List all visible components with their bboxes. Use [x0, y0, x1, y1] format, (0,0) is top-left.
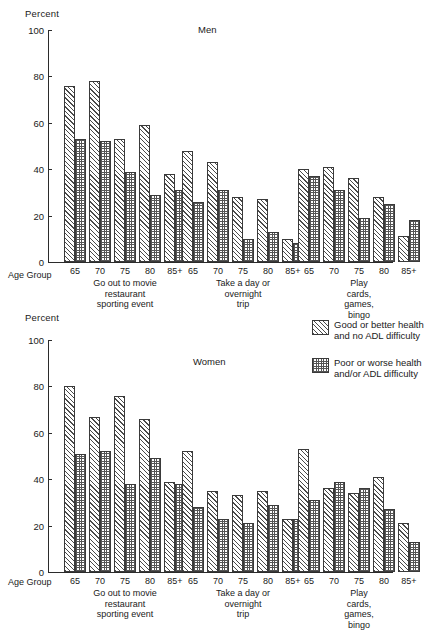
x-tick-label: 80 [145, 576, 155, 586]
x-tick-label: 65 [70, 266, 80, 276]
bar [243, 523, 254, 572]
y-axis-line [48, 30, 49, 262]
legend-swatch-diagonal-hatch [312, 320, 329, 335]
bar [89, 81, 100, 262]
y-axis-line [48, 340, 49, 572]
bar [298, 169, 309, 262]
legend-item: Poor or worse health and/or ADL difficul… [312, 358, 422, 380]
bar [348, 493, 359, 572]
bar [232, 495, 243, 572]
x-axis-line [48, 572, 393, 573]
bar [359, 218, 370, 262]
bar [268, 232, 279, 262]
bar [384, 204, 395, 262]
bar [373, 197, 384, 262]
x-tick-label: 75 [120, 266, 130, 276]
age-group-label-women: Age Group [8, 577, 52, 587]
bar [218, 190, 229, 262]
y-tick-mark [48, 169, 52, 170]
bar [164, 174, 175, 262]
y-tick-label: 0 [39, 567, 48, 578]
bar [384, 509, 395, 572]
bar [89, 417, 100, 572]
x-tick-label: 85+ [401, 576, 416, 586]
x-tick-label: 70 [329, 266, 339, 276]
bar [323, 167, 334, 262]
x-tick-label: 70 [329, 576, 339, 586]
bar [164, 482, 175, 572]
bar [257, 491, 268, 572]
x-tick-label: 65 [70, 576, 80, 586]
bar [282, 519, 293, 572]
y-tick-label: 80 [33, 71, 48, 82]
y-tick-mark [48, 123, 52, 124]
bar [334, 482, 345, 572]
bar [218, 519, 229, 572]
legend: Good or better health and no ADL difficu… [312, 320, 444, 392]
x-tick-label: 65 [188, 266, 198, 276]
bar [64, 386, 75, 572]
x-tick-label: 70 [95, 576, 105, 586]
bar [125, 172, 136, 262]
y-tick-label: 0 [39, 257, 48, 268]
bar [243, 239, 254, 262]
x-tick-label: 70 [213, 266, 223, 276]
x-tick-label: 65 [304, 266, 314, 276]
bar [193, 202, 204, 262]
bar [409, 220, 420, 262]
bar [323, 488, 334, 572]
bar [398, 236, 409, 262]
group-caption: Go out to movie restaurant sporting even… [93, 588, 157, 620]
y-tick-mark [48, 386, 52, 387]
bar [100, 451, 111, 572]
y-tick-mark [48, 262, 52, 263]
x-tick-label: 70 [95, 266, 105, 276]
x-tick-label: 65 [304, 576, 314, 586]
x-tick-label: 80 [379, 576, 389, 586]
y-tick-mark [48, 340, 52, 341]
x-tick-label: 85+ [167, 266, 182, 276]
y-tick-mark [48, 216, 52, 217]
bar [182, 451, 193, 572]
bar [409, 542, 420, 572]
y-tick-label: 100 [28, 25, 48, 36]
y-tick-label: 100 [28, 335, 48, 346]
legend-item: Good or better health and no ADL difficu… [312, 320, 424, 342]
bar [125, 484, 136, 572]
y-tick-mark [48, 433, 52, 434]
y-axis-title-women: Percent [25, 312, 59, 323]
bar [298, 449, 309, 572]
y-tick-mark [48, 526, 52, 527]
bar [309, 500, 320, 572]
x-tick-label: 75 [354, 576, 364, 586]
y-tick-label: 40 [33, 164, 48, 175]
legend-label: Poor or worse health and/or ADL difficul… [334, 358, 422, 380]
x-tick-label: 80 [263, 266, 273, 276]
x-tick-label: 75 [238, 266, 248, 276]
bar [232, 197, 243, 262]
y-tick-label: 40 [33, 474, 48, 485]
y-tick-label: 60 [33, 427, 48, 438]
bar [359, 488, 370, 572]
y-tick-mark [48, 479, 52, 480]
x-tick-label: 80 [379, 266, 389, 276]
bar [64, 86, 75, 262]
x-tick-label: 85+ [285, 266, 300, 276]
chart-panel-men: Percent Men 0204060801006570758085+Go ou… [0, 0, 444, 308]
bar [398, 523, 409, 572]
y-tick-label: 20 [33, 210, 48, 221]
bar [309, 176, 320, 262]
group-caption: Play cards, games, bingo [342, 588, 376, 630]
legend-label: Good or better health and no ADL difficu… [334, 320, 424, 342]
x-tick-label: 65 [188, 576, 198, 586]
y-tick-mark [48, 76, 52, 77]
y-tick-mark [48, 30, 52, 31]
legend-swatch-checkerboard [312, 358, 329, 373]
x-tick-label: 75 [120, 576, 130, 586]
y-tick-label: 20 [33, 520, 48, 531]
x-tick-label: 70 [213, 576, 223, 586]
bar [139, 125, 150, 262]
plot-area-men: 0204060801006570758085+Go out to movie r… [48, 30, 393, 262]
bar [334, 190, 345, 262]
chart-panel-women: Percent Women 0204060801006570758085+Go … [0, 300, 444, 617]
